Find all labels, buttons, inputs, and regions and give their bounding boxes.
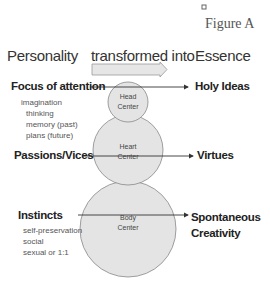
spontaneous-creativity-label: Spontaneous Creativity [191,209,261,241]
body-item: sexual or 1:1 [23,247,82,258]
body-items: self-preservation social sexual or 1:1 [23,225,82,258]
heart-center-line2: Center [108,152,148,162]
head-center-line2: Center [108,102,148,112]
virtues-label: Virtues [197,149,234,161]
header-personality: Personality [7,47,78,64]
marker-square-icon [202,5,206,9]
header-transformed-into: transformed into [91,47,195,64]
head-item: thinking [21,108,78,119]
focus-of-attention-label: Focus of attention [11,80,105,92]
head-item: imagination [21,97,78,108]
instincts-label: Instincts [18,209,63,221]
body-center-line2: Center [108,223,148,233]
head-item: memory (past) [21,119,78,130]
head-item: plans (future) [21,130,78,141]
body-center-line1: Body [108,213,148,223]
header-essence: Essence [195,47,250,64]
passions-vices-label: Passions/Vices [14,149,93,161]
body-item: self-preservation [23,225,82,236]
figure-label: Figure A [205,16,254,32]
holy-ideas-label: Holy Ideas [195,80,250,92]
head-center-line1: Head [108,92,148,102]
body-item: social [23,236,82,247]
head-center-label: Head Center [108,92,148,112]
heart-center-label: Heart Center [108,142,148,162]
head-items: imagination thinking memory (past) plans… [21,97,78,141]
body-center-label: Body Center [108,213,148,233]
transform-block-arrow-icon [92,62,167,77]
heart-center-line1: Heart [108,142,148,152]
creativity-line: Creativity [191,225,261,241]
spontaneous-line: Spontaneous [191,209,261,225]
